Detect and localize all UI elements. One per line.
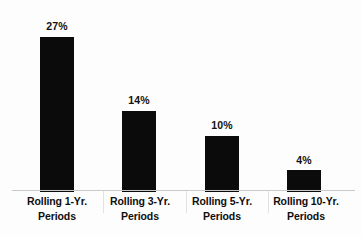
bar-2 [122,111,156,192]
category-label-3-line1: Rolling 5-Yr. [192,195,252,207]
category-label-1-line2: Periods [12,209,102,224]
bar-value-label-3: 10% [199,119,245,131]
x-axis-category-labels: Rolling 1-Yr. Periods Rolling 3-Yr. Peri… [0,194,362,236]
category-label-3-line2: Periods [177,209,267,224]
category-label-1: Rolling 1-Yr. Periods [12,194,102,223]
category-label-4-line1: Rolling 10-Yr. [273,195,339,207]
plot-area: 27% 14% 10% 4% [0,0,362,192]
category-label-2: Rolling 3-Yr. Periods [95,194,185,223]
bar-value-label-4: 4% [281,154,327,166]
bar-value-label-2: 14% [116,94,162,106]
category-label-1-line1: Rolling 1-Yr. [27,195,87,207]
category-label-4-line2: Periods [259,209,353,224]
bar-chart: 27% 14% 10% 4% Rolling 1-Yr. Periods Rol… [0,0,362,236]
category-label-2-line2: Periods [95,209,185,224]
category-label-4: Rolling 10-Yr. Periods [259,194,353,223]
bar-value-label-1: 27% [34,20,80,32]
bar-1 [40,37,74,192]
x-axis-baseline [12,190,355,191]
bar-4 [287,170,321,192]
category-label-2-line1: Rolling 3-Yr. [110,195,170,207]
category-label-3: Rolling 5-Yr. Periods [177,194,267,223]
bar-3 [205,136,239,192]
